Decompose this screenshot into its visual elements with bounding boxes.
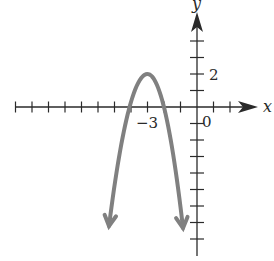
tick-label-neg3: −3 (136, 114, 158, 132)
tick-label-2: 2 (209, 66, 219, 84)
y-axis (190, 12, 204, 256)
y-axis-label: y (191, 0, 202, 13)
parabola-path (109, 74, 183, 228)
parabola-graph: x y −3 0 2 (0, 0, 274, 261)
x-axis-label: x (263, 97, 272, 116)
tick-label-0: 0 (202, 113, 212, 131)
x-axis (15, 101, 258, 113)
parabola-curve (105, 74, 188, 228)
